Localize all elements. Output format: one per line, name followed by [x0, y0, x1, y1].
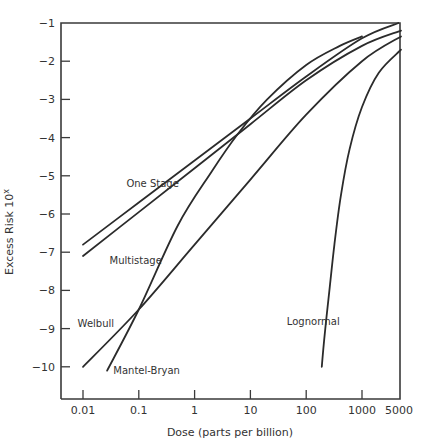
x-tick-label: 5000 [385, 404, 413, 417]
x-tick-label: 0.1 [130, 404, 148, 417]
x-tick-label: 1000 [348, 404, 376, 417]
plot-frame [61, 23, 400, 399]
label-multistage: Multistage [110, 255, 162, 266]
x-tick-label: 100 [296, 404, 317, 417]
y-tick-label: −10 [32, 361, 55, 374]
plot-border [61, 23, 400, 399]
curve-multistage [83, 31, 401, 256]
x-tick-label: 0.01 [71, 404, 96, 417]
y-tick-label: −2 [39, 55, 55, 68]
curves [83, 23, 401, 371]
y-axis-title-text: Excess Risk 10 [3, 194, 16, 275]
y-axis-title-superscript: x [2, 189, 11, 194]
x-tick-label: 10 [243, 404, 257, 417]
axis-ticks: 0.010.111010010005000−1−2−3−4−5−6−7−8−9−… [32, 17, 413, 417]
x-axis-title: Dose (parts per billion) [167, 426, 293, 439]
y-tick-label: −9 [39, 323, 55, 336]
label-one-stage: One Stage [126, 178, 178, 189]
label-mantel-bryan: Mantel-Bryan [113, 365, 180, 376]
y-axis-title: Excess Risk 10x [2, 189, 16, 275]
y-tick-label: −7 [39, 246, 55, 259]
curve-welbull [83, 36, 401, 366]
y-tick-label: −1 [39, 17, 55, 30]
y-tick-label: −3 [39, 93, 55, 106]
label-lognormal: Lognormal [287, 316, 340, 327]
x-tick-label: 1 [191, 404, 198, 417]
y-tick-label: −4 [39, 132, 55, 145]
y-tick-label: −8 [39, 284, 55, 297]
label-welbull: Welbull [78, 318, 114, 329]
curve-one-stage [83, 23, 398, 245]
series-labels: One StageMultistageWelbullMantel-BryanLo… [78, 178, 340, 376]
y-tick-label: −6 [39, 208, 55, 221]
y-tick-label: −5 [39, 170, 55, 183]
chart: 0.010.111010010005000−1−2−3−4−5−6−7−8−9−… [0, 0, 428, 446]
